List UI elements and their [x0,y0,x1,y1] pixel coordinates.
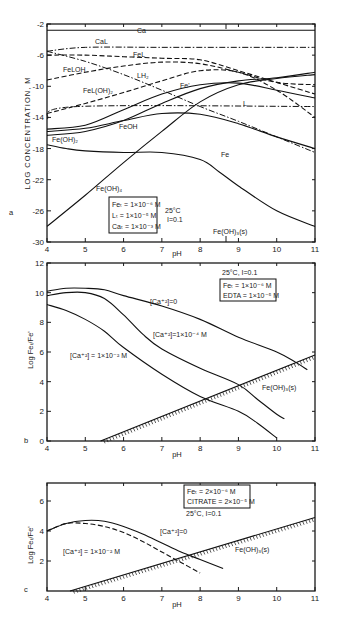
hatch-mark [151,421,153,425]
hatch-mark [107,580,109,584]
panel-b-ylabel: Log Feₜ/Fe' [26,331,35,369]
label-b-ca4: [Ca⁺²]=1×10⁻⁴ M [153,331,207,339]
hatch-mark [222,545,224,549]
series-line [47,106,315,119]
label-feprime: Fe' [180,82,190,89]
hatch-mark [264,375,266,379]
hatch-mark [234,542,236,546]
hatch-mark [276,371,278,375]
hatch-mark [226,391,228,395]
hatch-mark [110,579,112,583]
y-tick-label: 6 [40,497,45,506]
hatch-mark [278,529,280,533]
panel-c-letter: c [24,585,28,594]
hatch-mark [296,523,298,527]
panel-a-ionic-strength: I=0.1 [167,216,183,223]
hatch-mark [193,404,195,408]
hatch-mark [166,415,168,419]
hatch-mark [178,410,180,414]
hatch-mark [157,565,159,569]
hatch-mark [148,422,150,426]
label-cal: CaL [95,38,108,45]
panel-a-box-line-2: Lₜ = 1×10⁻⁵ M [112,212,156,219]
hatch-mark [268,531,270,535]
hatch-mark [144,569,146,573]
hatch-mark [299,522,301,526]
hatch-mark [211,397,213,401]
hatch-mark [249,381,251,385]
hatch-mark [312,356,314,360]
label-fe: Fe [221,151,229,158]
y-tick-label: 12 [35,259,44,268]
hatch-mark [231,543,233,547]
x-tick-label: 7 [160,444,165,453]
series-line [47,51,315,152]
hatch-mark [182,558,184,562]
hatch-mark [259,534,261,538]
hatch-mark [238,386,240,390]
hatch-mark [272,531,274,535]
hatch-mark [281,528,283,532]
hatch-mark [285,367,287,371]
y-tick-label: 2 [40,557,45,566]
hatch-mark [101,582,103,586]
y-tick-label: 10 [35,289,44,298]
series-line [47,520,223,568]
y-tick-label: 0 [40,437,45,446]
x-tick-label: 6 [121,594,126,603]
hatch-mark [291,365,293,369]
hatch-mark [288,366,290,370]
y-tick-label: 6 [40,348,45,357]
series-line [47,305,277,439]
label-fel: FeL [133,51,145,58]
hatch-mark [163,563,165,567]
y-tick-label: -30 [32,238,44,247]
hatch-mark [166,562,168,566]
hatch-mark [169,414,171,418]
hatch-mark [252,380,254,384]
y-tick-label: 4 [40,378,45,387]
hatch-mark [188,556,190,560]
hatch-mark [250,537,252,541]
x-tick-label: 9 [236,245,241,254]
x-tick-label: 8 [198,594,203,603]
panel-a-letter: a [9,208,14,217]
x-tick-label: 10 [272,444,281,453]
hatch-mark [132,572,134,576]
hatch-mark [265,532,267,536]
panel-b-box-line-1: Feₜ = 1×10⁻⁶ M [223,282,272,289]
hatch-mark [247,538,249,542]
panel-b-letter: b [24,436,28,445]
hatch-mark [98,583,100,587]
panel-c-axes-frame [47,483,315,591]
hatch-mark [235,387,237,391]
hatch-mark [309,519,311,523]
hatch-mark [142,424,144,428]
panel-a-ylabel: LOG CONCENTRATION, M [23,76,32,189]
hatch-mark [187,406,189,410]
label-c-ca2: [Ca⁺²] = 1×10⁻² M [63,548,120,556]
hatch-mark [255,379,257,383]
y-tick-label: -26 [32,207,44,216]
hatch-mark [145,423,147,427]
panel-a-temperature: 25°C [165,207,181,214]
series-line [47,145,315,227]
hatch-mark [127,430,128,434]
hatch-mark [217,394,219,398]
hatch-mark [118,434,120,438]
panel-b-xlabel: pH [172,450,182,459]
label-c-feoh3: Fe(OH)₃(s) [235,546,269,554]
hatch-mark [138,571,140,575]
hatch-mark [232,388,234,392]
label-b-feoh3: Fe(OH)₃(s) [262,384,296,392]
x-tick-label: 8 [198,245,203,254]
series-line [47,47,315,51]
hatch-mark [294,363,296,367]
x-tick-label: 11 [311,594,320,603]
hatch-mark [225,544,227,548]
hatch-mark [141,570,143,574]
hatch-mark [247,382,249,386]
panel-a-box-line-3: Caₜ = 1×10⁻³ M [112,223,161,230]
figure: 4567891011-2-6-10-14-18-22-26-30 a pH LO… [0,0,338,620]
hatch-mark [154,566,156,570]
